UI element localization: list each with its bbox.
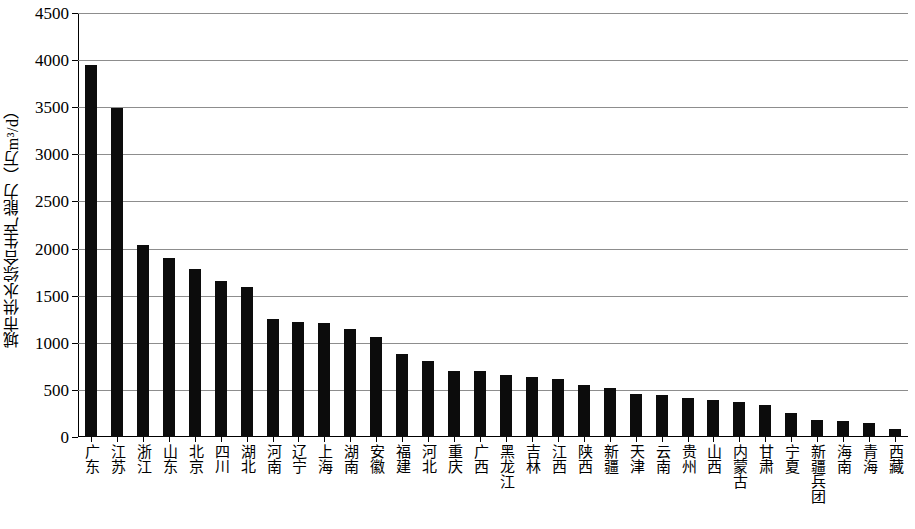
x-axis-label-text: 内蒙古 [732,444,747,489]
x-tick-mark [895,437,896,442]
bar-slot [104,13,130,437]
bar-slot [597,13,623,437]
x-tick-mark [713,437,714,442]
bar-slot [675,13,701,437]
bar[interactable] [137,245,149,437]
y-axis-title: 城市供水综合生产能力（万m³/d） [0,0,26,450]
bar[interactable] [318,323,330,437]
bar[interactable] [785,413,797,437]
x-tick-mark [117,437,118,442]
x-axis-label: 内蒙古 [726,444,752,529]
bar-slot [182,13,208,437]
x-axis-label: 江苏 [104,444,130,529]
bar-slot [234,13,260,437]
bar-slot [415,13,441,437]
x-axis-label-text: 广东 [83,444,98,474]
bar[interactable] [656,395,668,437]
x-tick-mark [221,437,222,442]
bar[interactable] [837,421,849,437]
x-tick-mark [843,437,844,442]
bar-chart: 城市供水综合生产能力（万m³/d） 0500100015002000250030… [0,0,915,529]
bar[interactable] [267,319,279,437]
bar-slot [441,13,467,437]
x-axis-label-text: 贵州 [680,444,695,474]
x-tick-mark [350,437,351,442]
bar[interactable] [448,371,460,437]
x-axis-label-text: 北京 [187,444,202,474]
bar[interactable] [630,394,642,437]
x-axis-label: 辽宁 [286,444,312,529]
bar[interactable] [396,354,408,437]
bar[interactable] [241,287,253,437]
bar[interactable] [889,429,901,437]
x-axis-label: 甘肃 [752,444,778,529]
bar[interactable] [111,108,123,437]
x-axis-label-text: 吉林 [524,444,539,474]
x-tick-mark [739,437,740,442]
bar-slot [363,13,389,437]
bar-slot [156,13,182,437]
x-tick-mark [532,437,533,442]
x-axis-label-text: 青海 [862,444,877,474]
x-axis-label: 北京 [182,444,208,529]
x-axis-label-text: 海南 [836,444,851,474]
x-tick-mark [143,437,144,442]
x-tick-mark [169,437,170,442]
bar-slot [467,13,493,437]
bar[interactable] [422,361,434,437]
bar[interactable] [733,402,745,437]
x-tick-mark [765,437,766,442]
x-tick-mark [791,437,792,442]
y-tick-label: 3000 [35,146,69,163]
x-tick-mark [402,437,403,442]
bars [78,13,908,437]
bar[interactable] [707,400,719,437]
bar[interactable] [863,423,875,437]
bar[interactable] [552,379,564,437]
bar[interactable] [500,375,512,437]
bar[interactable] [526,377,538,437]
x-axis-label: 新疆 [597,444,623,529]
bar[interactable] [344,329,356,437]
bar-slot [623,13,649,437]
bar[interactable] [85,65,97,437]
x-tick-mark [247,437,248,442]
bar-slot [752,13,778,437]
x-axis-label-text: 山东 [161,444,176,474]
bar-slot [78,13,104,437]
x-tick-mark [273,437,274,442]
x-axis-label: 吉林 [519,444,545,529]
bar[interactable] [163,258,175,437]
x-axis-label: 四川 [208,444,234,529]
x-tick-mark [817,437,818,442]
x-axis-label: 广东 [78,444,104,529]
x-tick-mark [195,437,196,442]
bar[interactable] [604,388,616,437]
bar[interactable] [759,405,771,437]
bar[interactable] [682,398,694,437]
x-axis-label: 安徽 [363,444,389,529]
bar-slot [389,13,415,437]
bar[interactable] [474,371,486,437]
x-axis-label-text: 江苏 [109,444,124,474]
x-axis-label-text: 广西 [473,444,488,474]
bar-slot [882,13,908,437]
x-axis-label-text: 甘肃 [758,444,773,474]
x-tick-mark [428,437,429,442]
bar-slot [701,13,727,437]
bar-slot [519,13,545,437]
y-tick-label: 3500 [35,99,69,116]
bar-slot [649,13,675,437]
x-axis-label: 广西 [467,444,493,529]
bar[interactable] [370,337,382,437]
x-axis-label: 云南 [649,444,675,529]
bar-slot [545,13,571,437]
bar[interactable] [215,281,227,437]
bar-slot [493,13,519,437]
bar[interactable] [189,269,201,437]
bar[interactable] [811,420,823,437]
x-axis-label-text: 新疆 [602,444,617,474]
bar[interactable] [578,385,590,437]
x-tick-mark [324,437,325,442]
bar[interactable] [292,322,304,437]
